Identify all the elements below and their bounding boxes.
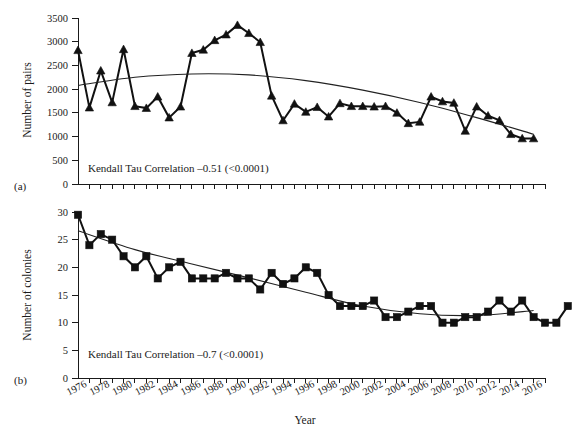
panel-b-label: (b) — [14, 374, 27, 387]
panel-b-point — [530, 314, 537, 321]
panel-b-point — [450, 319, 457, 326]
panel-b-xtick-2012: 2012 — [475, 378, 499, 398]
panel-b-point — [222, 269, 229, 276]
panel-b-xtick-2002: 2002 — [361, 378, 385, 398]
panel-b-point — [439, 319, 446, 326]
panel-b-point — [268, 269, 275, 276]
panel-b-xtick-2000: 2000 — [338, 378, 362, 398]
panel-b-point — [314, 269, 321, 276]
panel-b-point — [74, 211, 81, 218]
panel-b-xtick-2006: 2006 — [406, 378, 430, 398]
panel-a-point — [393, 109, 401, 117]
panel-a-point — [313, 103, 321, 111]
panel-b-trend-line — [78, 231, 534, 316]
panel-b-ytick-25: 25 — [58, 234, 69, 245]
panel-b-xtick-1984: 1984 — [156, 378, 180, 398]
panel-b-point — [473, 314, 480, 321]
panel-b-point — [131, 264, 138, 271]
panel-b-ytick-20: 20 — [58, 262, 69, 273]
panel-b-xtick-1992: 1992 — [247, 378, 271, 398]
panel-a-polyline — [78, 25, 534, 138]
panel-b-point — [427, 302, 434, 309]
panel-b-point — [405, 308, 412, 315]
panel-b-point — [245, 275, 252, 282]
panel-b: Number of colonies 0 5 10 15 20 25 30 — [14, 207, 571, 398]
panel-b-series — [78, 215, 568, 323]
panel-b-ytick-5: 5 — [63, 345, 68, 356]
panel-b-point — [234, 275, 241, 282]
panel-b-point — [393, 314, 400, 321]
panel-b-point — [143, 253, 150, 260]
panel-b-point — [200, 275, 207, 282]
panel-a-point — [267, 92, 275, 100]
panel-b-x-ticks — [89, 378, 545, 383]
panel-a-point — [97, 66, 105, 74]
panel-a-point — [176, 102, 184, 110]
panel-b-point — [97, 231, 104, 238]
panel-b-xtick-2014: 2014 — [497, 378, 521, 398]
panel-b-point — [519, 297, 526, 304]
panel-b-xtick-1982: 1982 — [133, 378, 157, 398]
panel-a-x-ticks — [89, 184, 545, 189]
panel-b-xtick-2010: 2010 — [452, 378, 476, 398]
panel-a-point — [472, 102, 480, 110]
panel-a-annotation: Kendall Tau Correlation –0.51 (<0.0001) — [88, 162, 269, 175]
panel-b-point — [371, 297, 378, 304]
panel-b-point — [325, 291, 332, 298]
panel-b-point — [154, 275, 161, 282]
panel-b-xtick-2008: 2008 — [429, 378, 453, 398]
panel-b-point — [302, 264, 309, 271]
panel-b-point — [336, 302, 343, 309]
panel-b-point — [382, 314, 389, 321]
panel-b-xtick-1980: 1980 — [110, 378, 134, 398]
panel-b-point — [279, 280, 286, 287]
panel-b-point — [348, 302, 355, 309]
panel-a-point — [461, 127, 469, 135]
panel-b-polyline — [78, 215, 568, 323]
panel-b-xtick-1994: 1994 — [270, 378, 294, 398]
panel-b-xtick-1996: 1996 — [292, 378, 316, 398]
panel-a-ytick-1000: 1000 — [47, 131, 68, 142]
panel-b-point — [507, 308, 514, 315]
panel-a-point — [154, 93, 162, 101]
panel-a-point — [427, 93, 435, 101]
panel-b-y-ticks: 0 5 10 15 20 25 30 — [58, 207, 79, 384]
panel-b-point — [564, 302, 571, 309]
two-panel-line-chart: Number of pairs 0 500 1000 1500 2000 — [0, 0, 575, 448]
panel-a-ytick-0: 0 — [63, 179, 68, 190]
panel-a-ytick-500: 500 — [52, 155, 68, 166]
panel-b-point — [109, 236, 116, 243]
panel-b-point — [177, 258, 184, 265]
panel-b-xtick-1998: 1998 — [315, 378, 339, 398]
panel-a-ylabel: Number of pairs — [21, 62, 34, 138]
panel-b-point — [291, 275, 298, 282]
panel-a-ytick-2000: 2000 — [47, 84, 68, 95]
panel-b-point — [120, 253, 127, 260]
panel-a-ytick-3500: 3500 — [47, 13, 68, 24]
panel-b-ytick-0: 0 — [63, 373, 68, 384]
panel-b-point — [166, 264, 173, 271]
panel-b-point — [416, 302, 423, 309]
panel-b-xtick-1988: 1988 — [201, 378, 225, 398]
panel-b-xtick-2004: 2004 — [384, 378, 408, 398]
panel-b-xtick-1978: 1978 — [87, 378, 111, 398]
panel-a-label: (a) — [14, 180, 27, 193]
panel-a-point — [290, 100, 298, 108]
panel-b-point — [86, 242, 93, 249]
panel-b-xtick-2016: 2016 — [520, 378, 544, 398]
panel-b-xtick-1990: 1990 — [224, 378, 248, 398]
panel-b-point — [462, 314, 469, 321]
panel-a-point — [119, 45, 127, 53]
panel-a-point — [74, 46, 82, 54]
x-axis-title: Year — [294, 414, 315, 426]
panel-a-ytick-3000: 3000 — [47, 36, 68, 47]
panel-b-xtick-1986: 1986 — [179, 378, 203, 398]
figure-container: Number of pairs 0 500 1000 1500 2000 — [0, 0, 575, 448]
panel-b-xtick-1976: 1976 — [65, 378, 89, 398]
panel-a-ytick-1500: 1500 — [47, 107, 68, 118]
panel-b-point — [188, 275, 195, 282]
panel-a-series — [78, 25, 534, 138]
panel-b-point — [553, 319, 560, 326]
panel-b-point — [541, 319, 548, 326]
panel-b-x-ticklabels: 1976197819801982198419861988199019921994… — [65, 378, 544, 398]
